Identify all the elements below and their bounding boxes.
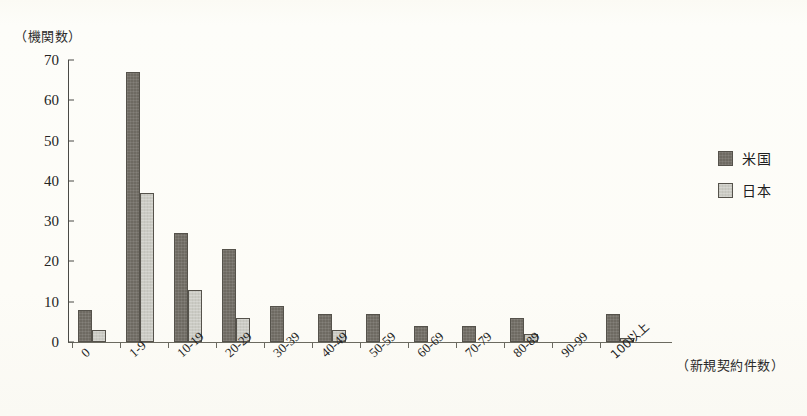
y-axis-tick-label: 50 xyxy=(44,132,68,149)
chart-legend: 米国日本 xyxy=(718,148,772,212)
plot-bars xyxy=(68,60,668,342)
y-axis-title: （機関数） xyxy=(14,26,82,45)
x-axis-tick-mark xyxy=(504,343,505,348)
bar-chart: （機関数） （新規契約件数） 010203040506070 01-910-19… xyxy=(0,0,807,416)
bar-us xyxy=(78,310,92,342)
x-axis-tick-mark xyxy=(264,343,265,348)
bar-us xyxy=(222,249,236,342)
bar-jp xyxy=(92,330,106,342)
x-axis-tick-mark xyxy=(168,343,169,348)
bar-us xyxy=(126,72,140,342)
legend-label: 米国 xyxy=(742,148,772,168)
y-axis-tick-label: 0 xyxy=(52,334,69,351)
legend-item: 日本 xyxy=(718,180,772,200)
x-axis-tick-mark xyxy=(408,343,409,348)
y-axis-tick-label: 30 xyxy=(44,213,68,230)
y-axis-tick-label: 40 xyxy=(44,172,68,189)
x-axis-tick-mark xyxy=(552,343,553,348)
x-axis-tick-mark xyxy=(120,343,121,348)
y-axis-tick-label: 60 xyxy=(44,92,68,109)
x-axis-tick-label: 0 xyxy=(78,345,94,361)
legend-item: 米国 xyxy=(718,148,772,168)
legend-swatch-jp xyxy=(718,183,733,198)
bar-us xyxy=(174,233,188,342)
x-axis-tick-mark xyxy=(360,343,361,348)
legend-label: 日本 xyxy=(742,180,772,200)
y-axis-tick-label: 10 xyxy=(44,293,68,310)
legend-swatch-us xyxy=(718,151,733,166)
y-axis-tick-label: 20 xyxy=(44,253,68,270)
x-axis-tick-mark xyxy=(216,343,217,348)
y-axis-tick-label: 70 xyxy=(44,52,68,69)
x-axis-tick-mark xyxy=(600,343,601,348)
x-axis-tick-mark xyxy=(456,343,457,348)
x-axis-tick-mark xyxy=(72,343,73,348)
x-axis-title: （新規契約件数） xyxy=(676,355,784,374)
x-axis-tick-mark xyxy=(312,343,313,348)
bar-jp xyxy=(140,193,154,342)
